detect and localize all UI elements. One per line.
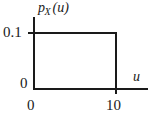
y-axis-title: pX(u) [38,1,69,17]
pdf-plot-figure: pX(u) 0.1 0 0 10 u [0,0,154,121]
x-axis-label-10: 10 [106,98,121,113]
y-axis-title-subscript: X [45,6,51,17]
y-axis-tick-0.1 [28,32,34,34]
y-axis-label-0.1: 0.1 [3,25,22,40]
pulse-top-edge [33,32,117,34]
x-axis-tick-10 [115,84,117,94]
y-axis-title-symbol: p [38,0,45,15]
y-axis-label-0: 0 [20,76,28,91]
pulse-right-edge [115,32,117,89]
y-axis-line [33,17,35,90]
x-axis-line [33,88,148,90]
x-axis-label-0: 0 [27,98,35,113]
y-axis-title-argument: (u) [53,0,69,15]
x-axis-title: u [133,70,140,84]
